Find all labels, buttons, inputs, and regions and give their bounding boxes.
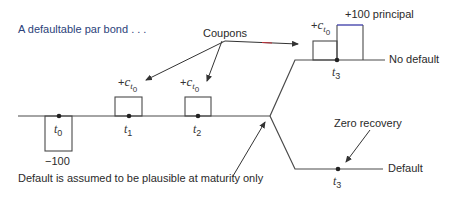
coupon-sub-sub: 0 xyxy=(326,28,330,37)
zero-recovery-arrow xyxy=(346,130,370,162)
coupon-sub-sub: 0 xyxy=(133,85,137,94)
default-note: Default is assumed to be plausible at ma… xyxy=(18,173,263,184)
tick-sub: 2 xyxy=(196,128,201,138)
t0-dot xyxy=(57,114,62,119)
tick-t3-no-default: t3 xyxy=(332,66,340,81)
no-default-branch xyxy=(270,60,385,116)
tick-t3-default: t3 xyxy=(333,175,341,190)
coupon-label-t1: +ct0 xyxy=(118,75,137,94)
tick-sub: 3 xyxy=(335,71,340,81)
coupon-box-t1 xyxy=(115,97,142,116)
coupons-label: Coupons xyxy=(203,28,247,39)
tick-t2: t2 xyxy=(193,123,201,138)
coupon-box-t2 xyxy=(185,97,211,116)
principal-label: +100 principal xyxy=(345,9,414,20)
tick-sub: 1 xyxy=(127,128,132,138)
tick-sub: 0 xyxy=(57,128,62,138)
initial-payment-label: −100 xyxy=(45,156,70,167)
tick-sub: 3 xyxy=(336,180,341,190)
zero-recovery-label: Zero recovery xyxy=(334,118,402,129)
coupon-label-t3: +ct0 xyxy=(311,18,330,37)
coupon-box-t3 xyxy=(313,41,337,60)
t1-dot xyxy=(127,114,132,119)
coupon-sub-sub: 0 xyxy=(195,85,199,94)
tick-t0: t0 xyxy=(54,123,62,138)
t2-dot xyxy=(196,114,201,119)
coupon-label-t2: +ct0 xyxy=(180,75,199,94)
coupons-arrow-accent xyxy=(262,43,272,44)
default-note-arrow xyxy=(233,122,265,176)
tick-t1: t1 xyxy=(124,123,132,138)
t3-no-default-dot xyxy=(335,58,340,63)
t3-default-dot xyxy=(336,167,341,172)
diagram-title: A defaultable par bond . . . xyxy=(18,24,146,35)
no-default-label: No default xyxy=(389,54,439,65)
coupons-arrow-t3 xyxy=(225,41,298,44)
coupons-arrow-t2 xyxy=(207,41,222,81)
default-label: Default xyxy=(388,163,423,174)
